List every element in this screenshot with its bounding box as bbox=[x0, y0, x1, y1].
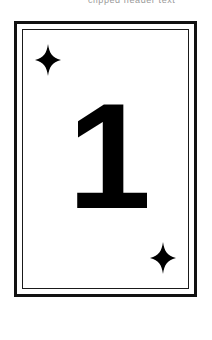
card-inner-border: 1 bbox=[22, 29, 189, 289]
clipped-header-strip: clipped header text bbox=[0, 0, 212, 7]
playing-card[interactable]: 1 bbox=[14, 21, 197, 297]
card-rank-label: 1 bbox=[68, 81, 151, 231]
clipped-header-text: clipped header text bbox=[88, 0, 175, 5]
card-outer-border: 1 bbox=[14, 21, 197, 297]
card-face: 1 bbox=[23, 30, 188, 288]
diamond-pip-icon bbox=[35, 44, 61, 76]
diamond-pip-icon bbox=[150, 242, 176, 274]
